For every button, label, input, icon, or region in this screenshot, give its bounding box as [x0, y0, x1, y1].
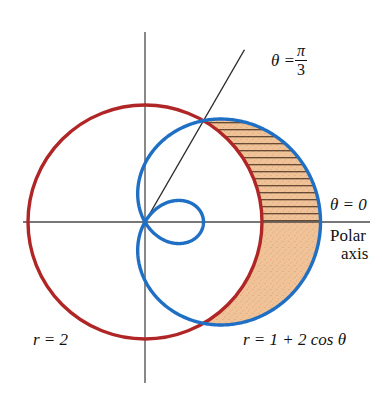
polar-graph-figure: θ =π3 θ = 0 Polar axis r = 2 r = 1 + 2 c…	[0, 0, 382, 402]
fraction-numerator: π	[295, 43, 307, 59]
limacon-equation-label: r = 1 + 2 cos θ	[243, 331, 346, 349]
circle-equation-label: r = 2	[33, 331, 68, 349]
fraction-denominator: 3	[295, 62, 307, 78]
polar-axis-label: Polar axis	[330, 227, 368, 263]
polar-axis-label-line1: Polar	[330, 226, 366, 245]
pi-over-three-fraction: π3	[295, 43, 307, 79]
ray-angle-label: θ =π3	[271, 44, 307, 80]
polar-axis-angle-label: θ = 0	[330, 196, 367, 214]
polar-axis-label-line2: axis	[330, 245, 368, 263]
ray-angle-label-text: θ =	[271, 51, 295, 70]
